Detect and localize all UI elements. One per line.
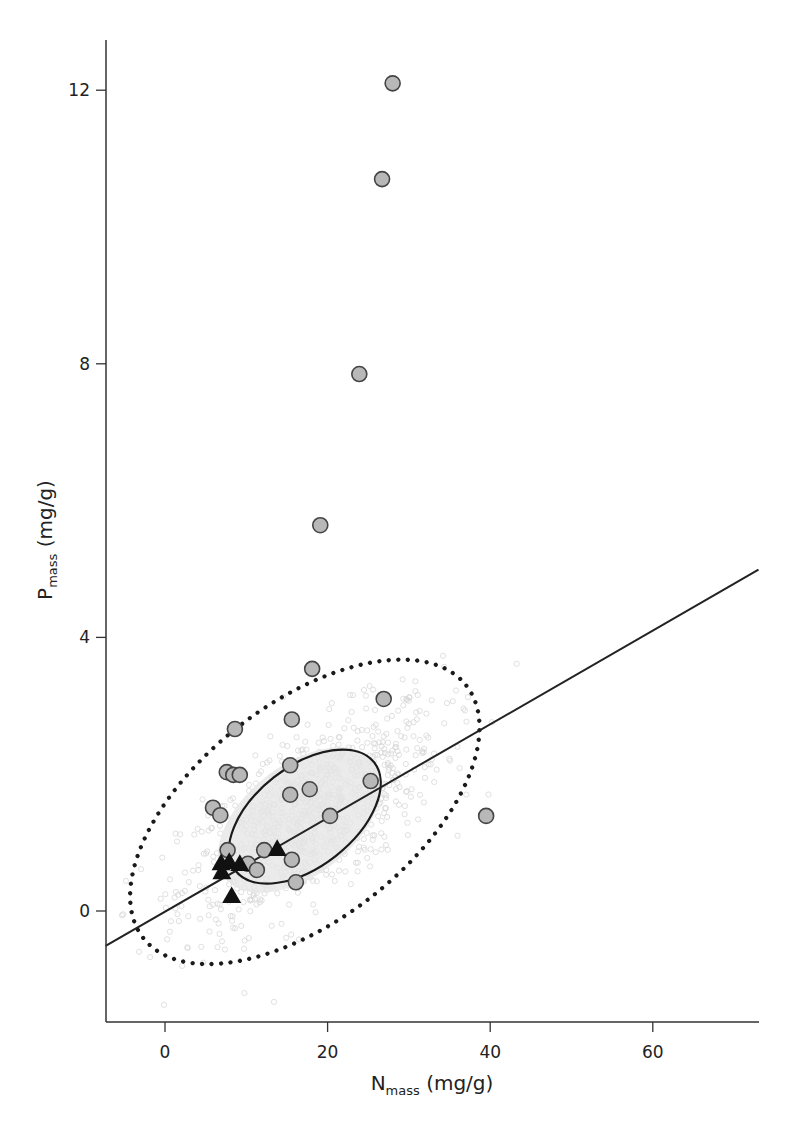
circle-point [283, 787, 298, 802]
x-tick-label: 20 [317, 1042, 339, 1062]
circle-point [385, 76, 400, 91]
circle-point [283, 758, 298, 773]
circle-point [375, 172, 390, 187]
circle-point [284, 852, 299, 867]
x-axis-label: Nmass (mg/g) [371, 1071, 494, 1098]
x-tick-label: 0 [160, 1042, 171, 1062]
x-tick-label: 40 [479, 1042, 501, 1062]
triangle-point [222, 886, 241, 903]
y-ticks: 04812 [68, 80, 106, 921]
x-ticks: 0204060 [160, 1022, 664, 1062]
circle-point [479, 808, 494, 823]
regression-line [106, 570, 759, 946]
circle-point [227, 722, 242, 737]
y-axis-label: Pmass (mg/g) [33, 480, 60, 600]
circle-point [376, 691, 391, 706]
circle-point [352, 367, 367, 382]
y-tick-label: 0 [79, 901, 90, 921]
circle-point [232, 767, 247, 782]
circle-point [313, 518, 328, 533]
circle-point [249, 862, 264, 877]
circle-point [288, 875, 303, 890]
circle-point [302, 782, 317, 797]
circle-point [363, 774, 378, 789]
circle-point [213, 808, 228, 823]
circle-point [284, 712, 299, 727]
x-tick-label: 60 [642, 1042, 664, 1062]
circle-point [323, 808, 338, 823]
background-point-cloud [119, 653, 519, 1007]
y-tick-label: 4 [79, 627, 90, 647]
scatter-plot: 0204060 04812 Nmass (mg/g) Pmass (mg/g) [0, 0, 794, 1125]
y-tick-label: 12 [68, 80, 90, 100]
y-tick-label: 8 [79, 354, 90, 374]
fit-line [106, 570, 759, 946]
circle-point [305, 661, 320, 676]
